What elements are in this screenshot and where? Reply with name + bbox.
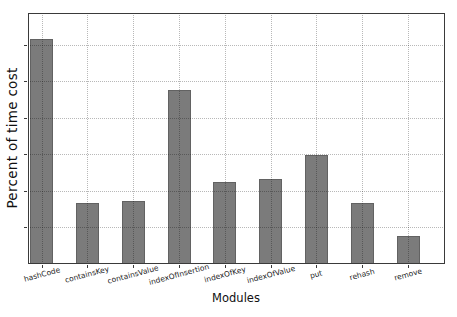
- x-tick-label-rehash: rehash: [349, 267, 376, 282]
- x-tick-mark: [316, 265, 317, 268]
- x-tick-mark: [362, 265, 363, 268]
- x-tick-mark: [87, 265, 88, 268]
- grid-layer: [28, 13, 445, 264]
- x-tick-mark: [271, 265, 272, 268]
- horizontal-gridline: [28, 154, 445, 155]
- x-tick-mark: [133, 265, 134, 268]
- x-tick-mark: [408, 265, 409, 268]
- x-tick-label-hashCode: hashCode: [23, 265, 61, 283]
- horizontal-gridline: [28, 118, 445, 119]
- x-axis-label: Modules: [212, 291, 260, 305]
- vertical-gridline: [133, 13, 134, 264]
- vertical-gridline: [271, 13, 272, 264]
- horizontal-gridline: [28, 45, 445, 46]
- vertical-gridline: [225, 13, 226, 264]
- y-tick-mark: [24, 81, 27, 82]
- y-tick-mark: [24, 191, 27, 192]
- x-tick-label-remove: remove: [393, 266, 423, 282]
- x-tick-mark: [225, 265, 226, 268]
- y-axis-label: Percent of time cost: [4, 67, 20, 208]
- y-tick-mark: [24, 45, 27, 46]
- vertical-gridline: [42, 13, 43, 264]
- x-tick-label-put: put: [309, 269, 323, 281]
- x-tick-mark: [42, 265, 43, 268]
- vertical-gridline: [179, 13, 180, 264]
- y-tick-mark: [24, 227, 27, 228]
- vertical-gridline: [408, 13, 409, 264]
- horizontal-gridline: [28, 191, 445, 192]
- horizontal-gridline: [28, 227, 445, 228]
- vertical-gridline: [87, 13, 88, 264]
- vertical-gridline: [362, 13, 363, 264]
- horizontal-gridline: [28, 81, 445, 82]
- y-tick-mark: [24, 118, 27, 119]
- bar-chart-figure: Percent of time cost hashCodecontainsKey…: [0, 0, 457, 317]
- vertical-gridline: [316, 13, 317, 264]
- x-tick-mark: [179, 265, 180, 268]
- y-tick-mark: [24, 154, 27, 155]
- plot-area: [28, 13, 445, 264]
